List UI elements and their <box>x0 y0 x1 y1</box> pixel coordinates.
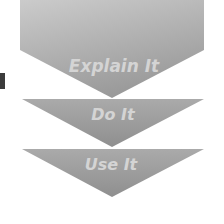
step-arrow-explain <box>20 0 204 98</box>
step-label-use: Use It <box>85 155 139 174</box>
step-label-do: Do It <box>91 105 136 124</box>
side-block <box>0 73 5 89</box>
process-arrows-diagram: Explain It Do It Use It <box>0 0 224 224</box>
step-label-explain: Explain It <box>69 56 160 76</box>
